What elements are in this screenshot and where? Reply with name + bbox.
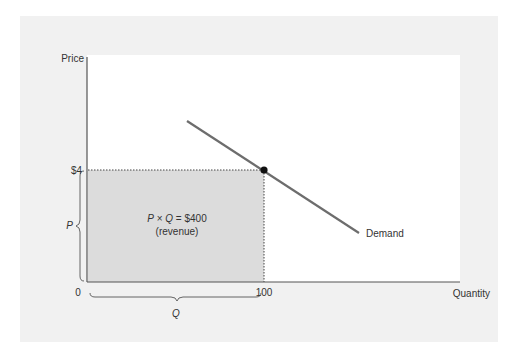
equilibrium-point [260,166,267,173]
y-axis-label: Price [61,53,84,64]
origin-label: 0 [75,287,81,298]
q-brace-icon [90,293,261,301]
x-axis-label: Quantity [453,288,490,299]
q-brace-label: Q [172,308,180,319]
p-brace-icon [76,171,84,281]
revenue-demand-chart: Price Quantity $4 0 100 P Q P × Q = $400… [0,0,514,358]
formula-value: = $400 [173,213,207,224]
revenue-note: (revenue) [156,226,199,237]
quantity-tick-label: 100 [256,287,273,298]
p-brace-label: P [66,220,73,231]
revenue-formula: P × Q = $400 [147,213,207,224]
price-tick-label: $4 [71,165,83,176]
formula-times: × [154,213,165,224]
demand-label: Demand [366,228,404,239]
